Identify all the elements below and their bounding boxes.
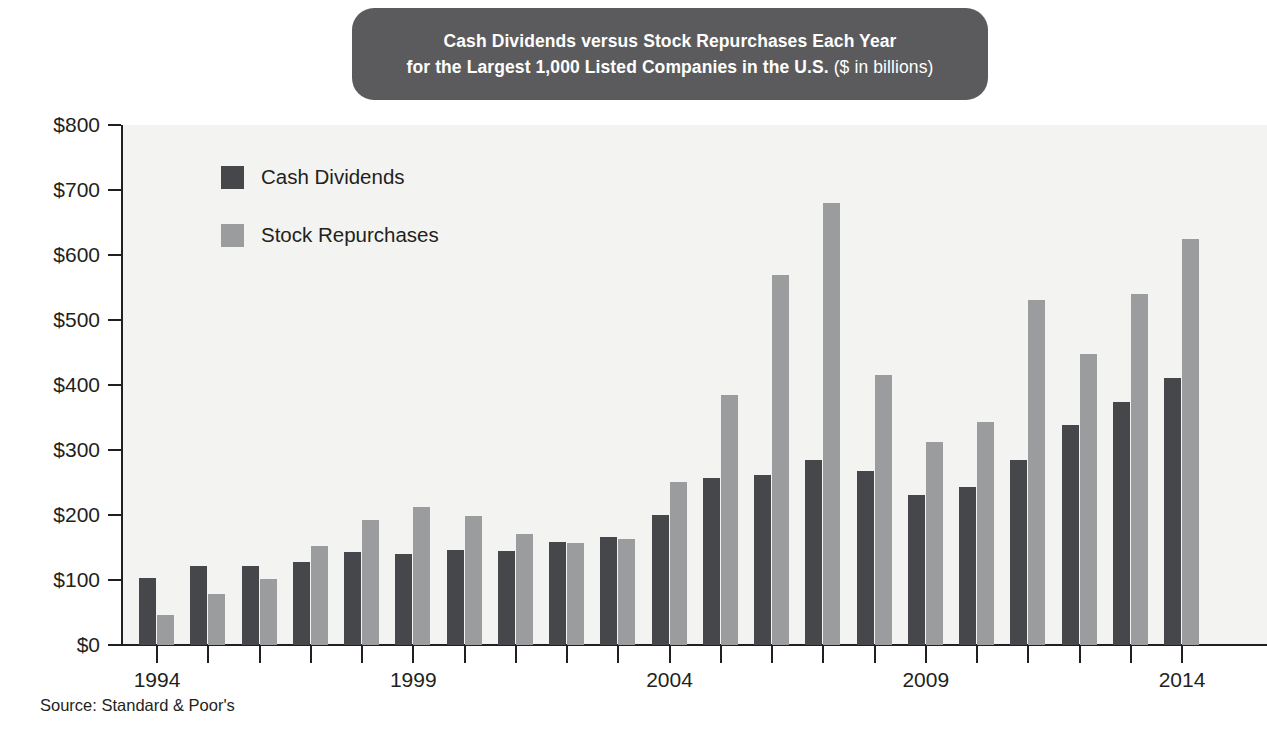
bar-cash-dividends-2011 [1010,460,1027,645]
legend-item-repurchases: Stock Repurchases [221,220,439,250]
bar-stock-repurchases-1995 [208,594,225,645]
bar-stock-repurchases-2008 [875,375,892,645]
x-axis-tick [156,646,158,663]
bar-cash-dividends-2002 [549,542,566,645]
bar-stock-repurchases-2012 [1080,354,1097,645]
bar-cash-dividends-2013 [1113,402,1130,645]
x-axis-tick [207,646,209,663]
bar-stock-repurchases-2006 [772,275,789,646]
bar-stock-repurchases-2005 [721,395,738,645]
bar-stock-repurchases-2002 [567,543,584,645]
bar-cash-dividends-1994 [139,578,156,645]
bar-cash-dividends-2008 [857,471,874,645]
source-note: Source: Standard & Poor's [40,696,235,715]
x-axis-tick [515,646,517,663]
x-axis-tick [925,646,927,663]
chart-legend: Cash DividendsStock Repurchases [221,162,439,278]
x-axis-tick-label: 2009 [866,669,986,690]
bar-cash-dividends-1999 [395,554,412,645]
x-axis-tick [361,646,363,663]
bar-stock-repurchases-2004 [670,482,687,645]
bar-cash-dividends-2007 [805,460,822,645]
x-axis-tick [259,646,261,663]
bar-cash-dividends-1998 [344,552,361,645]
bar-stock-repurchases-2010 [977,422,994,645]
x-axis-tick [720,646,722,663]
x-axis-tick [771,646,773,663]
bar-stock-repurchases-1994 [157,615,174,645]
x-axis-tick [1079,646,1081,663]
x-axis-tick [310,646,312,663]
bar-stock-repurchases-2013 [1131,294,1148,645]
bar-cash-dividends-2000 [447,550,464,645]
bar-stock-repurchases-1998 [362,520,379,645]
legend-item-dividends: Cash Dividends [221,162,439,192]
x-axis-tick [566,646,568,663]
bar-stock-repurchases-2014 [1182,239,1199,645]
bar-stock-repurchases-2001 [516,534,533,645]
bar-stock-repurchases-1997 [311,546,328,645]
x-axis-tick [874,646,876,663]
bar-cash-dividends-2010 [959,487,976,645]
bar-stock-repurchases-2000 [465,516,482,645]
legend-label-dividends: Cash Dividends [261,165,405,189]
x-axis-tick-label: 1999 [353,669,473,690]
bar-cash-dividends-1997 [293,562,310,645]
bar-stock-repurchases-2009 [926,442,943,645]
bar-cash-dividends-2001 [498,551,515,645]
bar-cash-dividends-2003 [600,537,617,645]
bar-cash-dividends-2005 [703,478,720,645]
bar-cash-dividends-2009 [908,495,925,645]
legend-label-repurchases: Stock Repurchases [261,223,439,247]
x-axis-tick-label: 1994 [97,669,217,690]
x-axis-tick [617,646,619,663]
legend-swatch-repurchases [221,224,244,247]
bar-stock-repurchases-2011 [1028,300,1045,645]
x-axis-tick-label: 2004 [610,669,730,690]
bar-cash-dividends-2012 [1062,425,1079,645]
bar-stock-repurchases-2007 [823,203,840,645]
x-axis-tick [412,646,414,663]
x-axis-tick [669,646,671,663]
bar-stock-repurchases-1999 [413,507,430,645]
x-axis-tick [464,646,466,663]
bar-stock-repurchases-2003 [618,539,635,645]
bar-cash-dividends-2006 [754,475,771,645]
bars-layer [0,0,1267,645]
x-axis-tick [976,646,978,663]
bar-cash-dividends-1995 [190,566,207,645]
x-axis-tick [822,646,824,663]
x-axis-tick [1181,646,1183,663]
x-axis-tick-label: 2014 [1122,669,1242,690]
legend-swatch-dividends [221,166,244,189]
x-axis-tick [1027,646,1029,663]
x-axis-tick [1130,646,1132,663]
bar-stock-repurchases-1996 [260,579,277,645]
bar-cash-dividends-1996 [242,566,259,645]
bar-cash-dividends-2004 [652,515,669,645]
bar-cash-dividends-2014 [1164,378,1181,645]
